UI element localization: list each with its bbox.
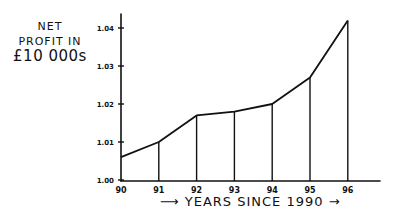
y-ticks: 1.001.011.021.031.04 bbox=[97, 25, 124, 185]
y-tick-label: 1.04 bbox=[97, 25, 114, 33]
y-tick-label: 1.03 bbox=[97, 63, 114, 71]
y-tick-label: 1.00 bbox=[97, 177, 114, 185]
x-tick-label: 90 bbox=[115, 186, 127, 195]
y-label-line-3: £10 000s bbox=[4, 49, 96, 64]
chart-axes bbox=[121, 14, 380, 181]
y-label-line-1: NET bbox=[4, 19, 96, 34]
y-tick-label: 1.02 bbox=[97, 101, 114, 109]
x-axis-label: ⟶ YEARS SINCE 1990 → bbox=[160, 194, 386, 209]
y-tick-label: 1.01 bbox=[97, 139, 114, 147]
drop-lines bbox=[159, 20, 348, 181]
y-axis-label: NET PROFIT IN £10 000s bbox=[4, 19, 96, 64]
